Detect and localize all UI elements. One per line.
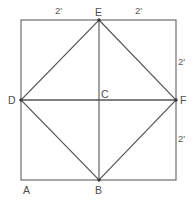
dimension-label-right-lower: 2' [178,134,185,144]
geometry-diagram [0,0,194,206]
dimension-label-top-right: 2' [135,6,142,16]
vertex-dot-b [97,178,100,181]
dimension-label-right-upper: 2' [178,57,185,67]
vertex-label-a: A [23,185,30,196]
vertex-label-f: F [180,95,186,106]
vertex-dot-d [19,98,22,101]
vertex-dot-f [174,98,177,101]
vertex-label-e: E [95,7,102,18]
vertex-dot-e [97,18,100,21]
dimension-label-top-left: 2' [55,6,62,16]
vertex-label-c: C [101,89,109,100]
vertex-label-d: D [8,95,16,106]
vertex-label-b: B [95,185,102,196]
